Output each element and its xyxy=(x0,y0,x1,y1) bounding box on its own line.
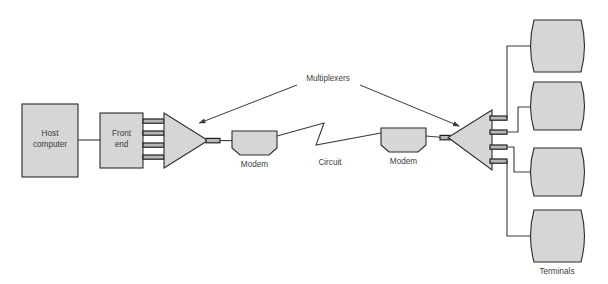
network-diagram: Host computer Front end Modem xyxy=(0,0,608,284)
output-stub-3 xyxy=(490,145,507,149)
host-computer-label-line1: Host xyxy=(42,129,60,138)
diagram-canvas: Host computer Front end Modem xyxy=(0,0,608,284)
terminal-2 xyxy=(531,82,585,130)
output-stub-2 xyxy=(490,130,507,134)
terminal-nodes: Terminals xyxy=(531,20,585,276)
front-end-label-line2: end xyxy=(115,140,129,149)
multiplexer-left xyxy=(164,113,220,168)
circuit-label: Circuit xyxy=(318,158,342,167)
terminal-1 xyxy=(531,20,585,72)
multiplexers-callout: Multiplexers xyxy=(200,74,460,126)
multiplexers-label: Multiplexers xyxy=(306,74,350,83)
terminal-4 xyxy=(531,210,585,262)
output-stub-1 xyxy=(490,116,507,120)
modem-right-node: Modem xyxy=(381,128,426,166)
terminal-link-3 xyxy=(507,147,530,172)
terminal-3 xyxy=(531,148,585,196)
front-end-label-line1: Front xyxy=(112,129,132,138)
terminals-label: Terminals xyxy=(539,267,574,276)
multiplexer-right-triangle xyxy=(448,110,492,170)
modem-left-node: Modem xyxy=(232,131,277,169)
host-computer-label-line2: computer xyxy=(33,140,67,149)
circuit-zigzag-line xyxy=(277,123,381,145)
port-stub-3 xyxy=(143,143,164,147)
multiplexer-left-output-stub xyxy=(206,138,220,142)
multiplexer-left-triangle xyxy=(164,113,208,168)
multiplexers-leader-left xyxy=(200,85,298,123)
host-computer-node: Host computer xyxy=(22,104,78,177)
terminal-link-2 xyxy=(507,107,530,132)
front-end-port-stubs xyxy=(143,119,164,159)
front-end-node: Front end xyxy=(100,113,143,168)
modem-right-label: Modem xyxy=(390,157,417,166)
modem-left-label: Modem xyxy=(241,160,268,169)
modem-left-shape xyxy=(232,131,277,155)
port-stub-2 xyxy=(143,131,164,135)
port-stub-1 xyxy=(143,119,164,123)
circuit-link: Circuit xyxy=(277,123,381,167)
terminal-routing-lines xyxy=(507,46,530,236)
output-stub-4 xyxy=(490,159,507,163)
port-stub-4 xyxy=(143,155,164,159)
multiplexer-right xyxy=(440,110,492,170)
multiplexers-leader-right xyxy=(360,85,459,126)
modem-right-shape xyxy=(381,128,426,152)
